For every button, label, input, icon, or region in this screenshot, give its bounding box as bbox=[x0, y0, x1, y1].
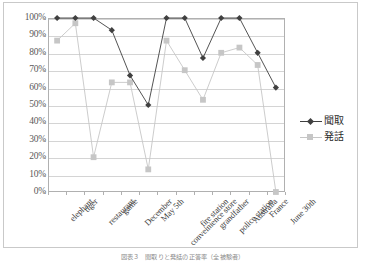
data-point-marker bbox=[163, 15, 169, 21]
data-point-marker bbox=[236, 15, 242, 21]
y-axis-labels: 100%90%80%70%60%50%40%30%20%10%0% bbox=[4, 18, 46, 192]
x-axis-tick-label: game bbox=[120, 197, 139, 216]
data-point-marker bbox=[164, 38, 170, 44]
y-axis-tick-mark bbox=[43, 105, 46, 106]
data-point-marker bbox=[127, 72, 133, 78]
data-point-marker bbox=[218, 50, 224, 56]
y-axis-tick-mark bbox=[43, 53, 46, 54]
data-point-marker bbox=[54, 15, 60, 21]
y-axis-tick-label: 10% bbox=[6, 170, 46, 180]
data-point-marker bbox=[72, 20, 78, 26]
legend-item[interactable]: 発話 bbox=[300, 129, 362, 145]
data-point-marker bbox=[200, 55, 206, 61]
data-point-marker bbox=[182, 67, 188, 73]
data-series bbox=[54, 20, 279, 195]
x-axis-labels: elephanttigerrestaurantgameDecemberMay 5… bbox=[4, 194, 365, 252]
data-point-marker bbox=[145, 102, 151, 108]
y-axis-tick-label: 90% bbox=[6, 30, 46, 40]
chart-frame: 100%90%80%70%60%50%40%30%20%10%0% elepha… bbox=[3, 2, 358, 248]
legend-marker bbox=[307, 134, 313, 140]
y-axis-tick-label: 20% bbox=[6, 152, 46, 162]
legend-marker bbox=[307, 117, 314, 124]
legend-label: 発話 bbox=[324, 132, 344, 142]
y-axis-tick-mark bbox=[43, 35, 46, 36]
y-axis-tick-label: 30% bbox=[6, 135, 46, 145]
chart-legend: 聞取発話 bbox=[300, 113, 362, 145]
data-point-marker bbox=[127, 79, 133, 85]
data-point-marker bbox=[182, 15, 188, 21]
data-point-marker bbox=[237, 45, 243, 51]
data-point-marker bbox=[145, 166, 151, 172]
data-series bbox=[54, 15, 279, 108]
x-axis-tick-label: June 30th bbox=[288, 197, 317, 226]
y-axis-tick-label: 100% bbox=[6, 13, 46, 23]
y-axis-tick-mark bbox=[43, 70, 46, 71]
data-point-marker bbox=[109, 27, 115, 33]
data-point-marker bbox=[255, 50, 261, 56]
y-axis-tick-mark bbox=[43, 157, 46, 158]
y-axis-tick-mark bbox=[43, 88, 46, 89]
data-point-marker bbox=[255, 62, 261, 68]
y-axis-tick-label: 40% bbox=[6, 117, 46, 127]
y-axis-tick-mark bbox=[43, 175, 46, 176]
data-point-marker bbox=[218, 15, 224, 21]
y-axis-tick-mark bbox=[43, 122, 46, 123]
y-axis-tick-label: 60% bbox=[6, 83, 46, 93]
legend-key-square-icon bbox=[300, 132, 322, 142]
data-point-marker bbox=[91, 154, 97, 160]
data-point-marker bbox=[273, 85, 279, 91]
y-axis-tick-mark bbox=[43, 140, 46, 141]
chart-plot-wrapper: 100%90%80%70%60%50%40%30%20%10%0% elepha… bbox=[4, 3, 357, 247]
series-line bbox=[57, 23, 276, 192]
legend-label: 聞取 bbox=[324, 116, 344, 126]
data-point-marker bbox=[90, 15, 96, 21]
y-axis-tick-label: 80% bbox=[6, 48, 46, 58]
y-axis-tick-mark bbox=[43, 192, 46, 193]
series-layer bbox=[48, 18, 285, 192]
data-point-marker bbox=[109, 79, 115, 85]
y-axis-tick-mark bbox=[43, 18, 46, 19]
data-point-marker bbox=[72, 15, 78, 21]
series-line bbox=[57, 18, 276, 105]
data-point-marker bbox=[54, 38, 60, 44]
data-point-marker bbox=[200, 97, 206, 103]
y-axis-tick-label: 70% bbox=[6, 65, 46, 75]
y-axis-tick-label: 50% bbox=[6, 100, 46, 110]
legend-item[interactable]: 聞取 bbox=[300, 113, 362, 129]
figure-caption: 図表３ 聞取りと発話の正答率（全被験者） bbox=[0, 252, 365, 261]
legend-key-diamond-icon bbox=[300, 116, 322, 126]
